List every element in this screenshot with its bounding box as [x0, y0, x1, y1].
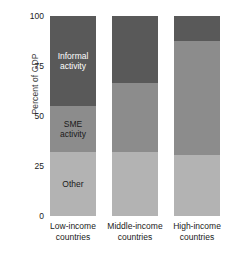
- segment-label: Other: [62, 179, 83, 189]
- bar-segment[interactable]: SME activity: [50, 106, 96, 152]
- bar-segment[interactable]: Other: [50, 152, 96, 216]
- segment-label: SME activity: [60, 119, 86, 139]
- bar-2[interactable]: [174, 16, 220, 216]
- bar-0[interactable]: OtherSME activityInformal activity: [50, 16, 96, 216]
- bar-segment[interactable]: [112, 16, 158, 83]
- bar-segment[interactable]: [112, 152, 158, 216]
- bar-segment[interactable]: [174, 41, 220, 155]
- y-tick-label: 25: [16, 162, 44, 171]
- segment-label: Informal activity: [58, 51, 89, 71]
- bar-segment[interactable]: Informal activity: [50, 16, 96, 106]
- y-tick-label: 0: [16, 212, 44, 221]
- bar-segment[interactable]: [112, 83, 158, 152]
- plot-area: OtherSME activityInformal activity: [48, 16, 224, 216]
- y-tick-label: 50: [16, 112, 44, 121]
- bar-1[interactable]: [112, 16, 158, 216]
- x-axis-label-2: High-income countries: [160, 221, 230, 242]
- bar-segment[interactable]: [174, 16, 220, 41]
- x-axis-labels: Low-income countriesMiddle-income countr…: [48, 221, 224, 261]
- stacked-bar-chart: Percent of GDP 0255075100 OtherSME activ…: [0, 0, 230, 270]
- y-tick-label: 75: [16, 62, 44, 71]
- y-tick-label: 100: [16, 12, 44, 21]
- bar-segment[interactable]: [174, 155, 220, 216]
